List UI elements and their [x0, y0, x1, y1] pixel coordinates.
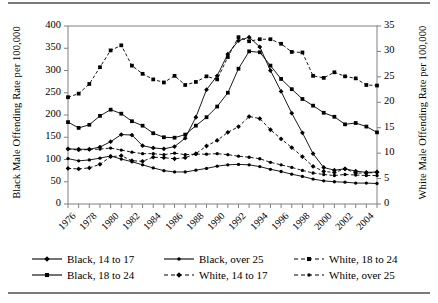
data-point-square	[151, 78, 155, 82]
data-point-circle	[311, 171, 314, 174]
series-line	[68, 37, 377, 172]
data-point-diamond	[279, 137, 284, 142]
data-point-circle	[247, 163, 250, 166]
data-point-circle	[184, 170, 187, 173]
data-point-square	[183, 133, 187, 137]
right-axis-tick-label: 15	[384, 121, 395, 132]
data-point-circle	[365, 174, 368, 177]
data-point-diamond	[311, 164, 316, 169]
data-point-square	[311, 74, 315, 78]
data-point-circle	[237, 155, 240, 158]
data-point-square	[258, 50, 262, 54]
data-point-square	[226, 91, 230, 95]
data-point-diamond	[193, 115, 198, 120]
series-line	[68, 156, 377, 184]
data-point-square	[375, 130, 379, 134]
data-point-diamond	[44, 256, 49, 261]
data-point-square	[194, 80, 198, 84]
legend-item[interactable]: White, 18 to 24	[292, 253, 397, 265]
data-point-diamond	[204, 144, 209, 149]
data-point-diamond	[140, 159, 145, 164]
data-point-diamond	[66, 166, 71, 171]
data-point-circle	[290, 173, 293, 176]
data-point-square	[354, 77, 358, 81]
data-point-diamond	[268, 68, 273, 73]
chart-figure: Black Male Offending Rate per 100,000 Wh…	[0, 0, 438, 303]
data-point-square	[98, 65, 102, 69]
data-point-circle	[88, 148, 91, 151]
data-point-diamond	[215, 138, 220, 143]
right-axis-tick-label: 30	[384, 44, 395, 55]
legend-item[interactable]: White, over 25	[292, 269, 395, 281]
legend-item[interactable]: Black, over 25	[162, 253, 263, 265]
data-point-circle	[98, 147, 101, 150]
bottom-rule	[8, 292, 430, 294]
data-point-circle	[109, 146, 112, 149]
data-point-circle	[375, 174, 378, 177]
data-point-circle	[269, 168, 272, 171]
data-point-square	[247, 39, 251, 43]
data-point-circle	[77, 148, 80, 151]
data-point-square	[364, 125, 368, 129]
data-point-circle	[301, 175, 304, 178]
data-point-square	[119, 112, 123, 116]
data-point-circle	[130, 150, 133, 153]
data-point-circle	[322, 173, 325, 176]
dashed-diamond-icon	[162, 269, 196, 281]
data-point-square	[162, 81, 166, 85]
data-point-circle	[77, 159, 80, 162]
legend-item[interactable]: Black, 14 to 17	[30, 253, 134, 265]
data-point-square	[205, 74, 209, 78]
data-point-circle	[354, 173, 357, 176]
legend-item[interactable]: Black, 18 to 24	[30, 269, 134, 281]
data-point-circle	[162, 153, 165, 156]
data-point-circle	[290, 166, 293, 169]
data-point-square	[237, 67, 241, 71]
right-axis-tick-label: 35	[384, 19, 395, 30]
data-point-diamond	[289, 111, 294, 116]
legend-label: White, 18 to 24	[326, 253, 397, 265]
data-point-diamond	[279, 89, 284, 94]
data-point-square	[247, 49, 251, 53]
data-point-circle	[120, 148, 123, 151]
data-point-square	[109, 49, 113, 53]
data-point-square	[98, 114, 102, 118]
data-point-circle	[247, 156, 250, 159]
data-point-square	[307, 257, 311, 261]
data-point-circle	[216, 165, 219, 168]
data-point-square	[343, 74, 347, 78]
data-point-circle	[258, 165, 261, 168]
data-point-square	[77, 92, 81, 96]
data-point-square	[215, 78, 219, 82]
data-point-square	[66, 120, 70, 124]
data-point-circle	[343, 173, 346, 176]
data-point-square	[119, 43, 123, 47]
data-point-square	[354, 121, 358, 125]
series-white-over-25	[66, 146, 378, 177]
data-point-square	[77, 126, 81, 130]
series-line	[68, 117, 377, 173]
series-black-14-to-17	[66, 35, 380, 175]
data-point-circle	[177, 257, 181, 261]
data-point-square	[333, 70, 337, 74]
data-point-circle	[205, 167, 208, 170]
data-point-square	[279, 42, 283, 46]
data-point-square	[322, 111, 326, 115]
series-line	[68, 37, 377, 97]
data-point-square	[375, 84, 379, 88]
data-point-circle	[184, 153, 187, 156]
legend-label: Black, 18 to 24	[64, 269, 134, 281]
series-line	[68, 148, 377, 175]
data-point-square	[141, 72, 145, 76]
legend-item[interactable]: White, 14 to 17	[162, 269, 267, 281]
data-point-square	[45, 273, 49, 277]
left-axis-tick-label: 200	[45, 108, 61, 119]
data-point-diamond	[151, 146, 156, 151]
dashed-square-icon	[292, 253, 326, 265]
data-point-diamond	[343, 167, 348, 172]
right-axis-tick-label: 20	[384, 95, 395, 106]
data-point-circle	[98, 157, 101, 160]
data-point-square	[173, 74, 177, 78]
data-point-square	[290, 87, 294, 91]
data-point-circle	[279, 163, 282, 166]
